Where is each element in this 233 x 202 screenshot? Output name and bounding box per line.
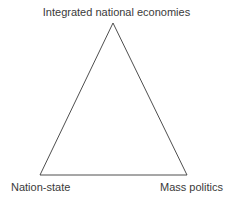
vertex-label-bottom-left: Nation-state — [11, 181, 70, 194]
vertex-label-bottom-right: Mass politics — [160, 181, 223, 194]
triangle-outline — [40, 23, 187, 175]
vertex-label-top: Integrated national economies — [0, 6, 233, 19]
trilemma-diagram: Integrated national economies Nation-sta… — [0, 0, 233, 202]
triangle-shape — [0, 0, 233, 202]
